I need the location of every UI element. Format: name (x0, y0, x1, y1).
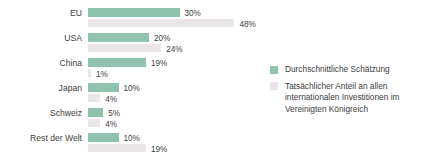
bar-value-label: 20% (154, 34, 170, 43)
legend-swatch-icon (270, 82, 278, 90)
chart-legend: Durchschnittliche SchätzungTatsächlicher… (270, 64, 435, 120)
bar-series-b (88, 69, 91, 77)
category-label: USA (0, 33, 82, 44)
bar-value-label: 30% (185, 9, 201, 18)
category-label: EU (0, 8, 82, 19)
bar-series-a (88, 83, 119, 92)
bar-value-label: 4% (105, 120, 117, 129)
bar-series-b (88, 144, 146, 152)
bar-chart: EU30%48%USA20%24%China19%1%Japan10%4%Sch… (0, 0, 435, 159)
bar-value-label: 48% (239, 20, 255, 29)
bar-series-b (88, 94, 100, 102)
bar-series-a (88, 58, 146, 67)
legend-item-series-b[interactable]: Tatsächlicher Anteil an allen internatio… (270, 81, 435, 116)
bar-value-label: 1% (96, 70, 108, 79)
chart-row: USA20%24% (0, 33, 260, 58)
bar-value-label: 10% (124, 84, 140, 93)
bar-value-label: 10% (124, 134, 140, 143)
chart-row: Rest der Welt10%19% (0, 133, 260, 158)
chart-row: EU30%48% (0, 8, 260, 33)
bar-series-b (88, 44, 161, 52)
bar-value-label: 5% (108, 109, 120, 118)
bar-series-b (88, 19, 234, 27)
bar-value-label: 19% (151, 145, 167, 154)
legend-label: Durchschnittliche Schätzung (285, 64, 390, 76)
category-label: Japan (0, 83, 82, 94)
legend-swatch-icon (270, 66, 278, 74)
bar-value-label: 24% (166, 45, 182, 54)
category-label: Rest der Welt (0, 133, 82, 144)
chart-row: Schweiz5%4% (0, 108, 260, 133)
bar-series-a (88, 108, 103, 117)
legend-item-series-a[interactable]: Durchschnittliche Schätzung (270, 64, 435, 76)
bar-series-a (88, 33, 149, 42)
category-label: Schweiz (0, 108, 82, 119)
plot-area: EU30%48%USA20%24%China19%1%Japan10%4%Sch… (0, 0, 260, 159)
chart-row: Japan10%4% (0, 83, 260, 108)
bar-value-label: 4% (105, 95, 117, 104)
chart-row: China19%1% (0, 58, 260, 83)
bar-series-a (88, 8, 180, 17)
bar-series-a (88, 133, 119, 142)
legend-label: Tatsächlicher Anteil an allen internatio… (285, 81, 435, 116)
category-label: China (0, 58, 82, 69)
bar-value-label: 19% (151, 59, 167, 68)
bar-series-b (88, 119, 100, 127)
